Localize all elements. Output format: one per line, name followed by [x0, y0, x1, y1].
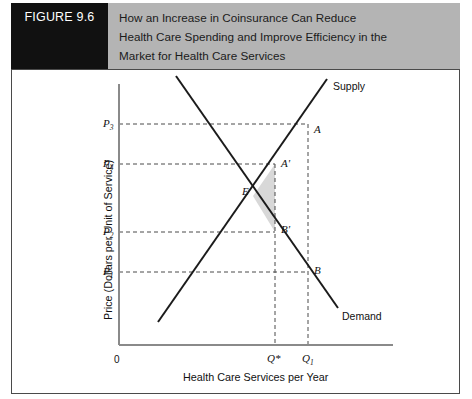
- supply-curve: [158, 79, 327, 322]
- origin-label: 0: [114, 354, 120, 365]
- point-label-b-prime: B': [281, 223, 290, 235]
- y-tick-label-p4: P4: [103, 157, 113, 172]
- supply-curve-label: Supply: [333, 80, 365, 92]
- supply-demand-chart: [0, 0, 472, 399]
- y-tick-label-p2: P2: [103, 225, 113, 240]
- figure-container: FIGURE 9.6 How an Increase in Coinsuranc…: [0, 0, 472, 399]
- point-label-a: A: [314, 123, 321, 135]
- x-tick-label-q-star: Q*: [267, 352, 280, 364]
- x-tick-label-q1: Q1: [302, 352, 314, 367]
- y-tick-label-p3: P3: [103, 117, 113, 132]
- deadweight-loss-triangle: [253, 164, 275, 232]
- x-axis-title: Health Care Services per Year: [183, 371, 328, 383]
- point-label-b: B: [314, 264, 321, 276]
- y-tick-label-p1: P1: [103, 265, 113, 280]
- point-label-a-prime: A': [281, 157, 290, 169]
- demand-curve-label: Demand: [342, 310, 382, 322]
- point-label-e: E: [242, 185, 249, 197]
